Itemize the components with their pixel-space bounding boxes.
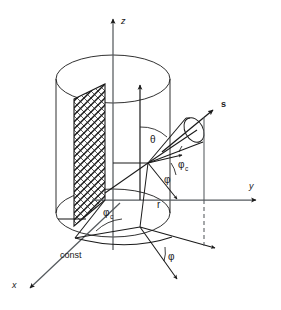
s-vector-label: s xyxy=(221,99,226,109)
phi-c-upper-label: φ c xyxy=(178,159,189,172)
base-curve-chord xyxy=(75,237,172,245)
phi-lower-arc xyxy=(164,247,165,261)
r-vector-label: r xyxy=(157,199,161,210)
phi-upper-label: φ xyxy=(164,174,171,185)
theta-label: θ xyxy=(150,134,156,145)
ray-to-plane-foot xyxy=(105,163,148,193)
ray-r xyxy=(148,163,177,199)
phi-c-lower-symbol: φ xyxy=(103,207,110,218)
diagram-canvas: z y x s xyxy=(0,0,281,310)
phi-c-upper-subscript: c xyxy=(185,165,189,172)
phi-c-upper-symbol: φ xyxy=(178,159,185,170)
global-axes xyxy=(30,19,256,288)
phi-const-plane xyxy=(74,84,105,226)
angle-arcs xyxy=(96,127,182,261)
phi-lower-label: φ xyxy=(168,251,175,262)
diagram-root: z y x s xyxy=(0,0,281,310)
x-axis-label: x xyxy=(11,280,17,290)
phi-upper-arc xyxy=(171,163,176,175)
const-label: const xyxy=(60,250,82,260)
phi-c-lower-arc xyxy=(96,219,122,231)
ray-to-base-centre xyxy=(140,163,148,227)
y-axis-label: y xyxy=(248,181,254,191)
phi-const-plane-fill xyxy=(74,84,105,226)
z-axis-label: z xyxy=(120,16,126,26)
